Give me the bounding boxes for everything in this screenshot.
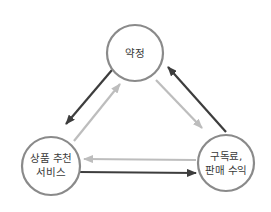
arrow-pledge-to-recommend [66,70,112,124]
arrow-pledge-to-revenue [156,80,202,128]
arrow-recommend-to-revenue [79,172,196,173]
label-line: 구독료, [205,149,247,163]
arrow-recommend-to-pledge [74,84,120,141]
label-line: 판매 수익 [205,163,247,177]
label-line: 서비스 [30,165,72,179]
node-label-revenue: 구독료, 판매 수익 [205,149,247,177]
node-label-recommend: 상품 추천 서비스 [30,151,72,179]
label-line: 약정 [125,46,144,60]
node-label-pledge: 약정 [125,46,144,60]
arrow-revenue-to-recommend [84,159,196,160]
cycle-diagram [0,0,271,212]
label-line: 상품 추천 [30,151,72,165]
